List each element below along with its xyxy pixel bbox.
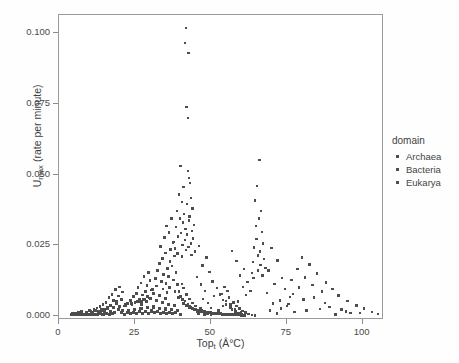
data-point (121, 291, 124, 294)
data-point (154, 277, 157, 280)
data-point (197, 312, 200, 315)
y-tick-label: 0.025 (8, 238, 50, 249)
data-point (240, 314, 243, 317)
data-point (232, 301, 235, 304)
y-axis-title: Umax (rate per minute) (31, 46, 45, 226)
data-point (152, 292, 155, 295)
data-point (70, 313, 73, 316)
data-point (117, 295, 120, 298)
data-point (129, 312, 132, 315)
data-point (304, 276, 306, 278)
data-point (162, 288, 165, 291)
data-point (191, 207, 193, 209)
data-point (147, 312, 150, 315)
data-point (211, 280, 213, 282)
data-point (253, 246, 255, 248)
data-point (181, 283, 184, 286)
data-point (170, 217, 173, 220)
data-point (305, 309, 307, 311)
legend-item-label: Eukarya (406, 177, 441, 188)
data-point (298, 286, 300, 288)
data-point (231, 250, 233, 252)
data-point (101, 313, 104, 316)
data-point (219, 293, 222, 296)
y-tick-label: 0.000 (8, 309, 50, 320)
plot-panel (58, 14, 383, 319)
data-point (252, 277, 254, 279)
data-point (269, 309, 271, 311)
data-point (172, 241, 175, 244)
data-point (114, 288, 117, 291)
data-point (182, 287, 185, 290)
data-point (160, 280, 163, 283)
x-tick-label: 50 (190, 326, 230, 337)
x-axis-title: Topt(Â°C) (58, 337, 383, 351)
x-tick-label: 100 (342, 326, 382, 337)
data-point (78, 313, 81, 316)
data-point (223, 286, 226, 289)
data-point (120, 298, 123, 301)
data-point (141, 312, 144, 315)
data-point (130, 302, 133, 305)
data-point (146, 284, 149, 287)
data-point (316, 272, 318, 274)
data-point (270, 247, 272, 249)
data-point (118, 286, 121, 289)
legend-item-bacteria[interactable]: Bacteria (392, 163, 458, 176)
legend-key (392, 181, 403, 184)
data-point (82, 313, 85, 316)
data-point (185, 106, 187, 108)
data-point (176, 252, 178, 254)
data-points-layer (59, 15, 382, 318)
data-point (198, 245, 200, 247)
data-point (140, 303, 143, 306)
data-point (203, 313, 206, 316)
data-point (115, 300, 118, 303)
data-point (308, 263, 310, 265)
data-point (187, 117, 189, 119)
data-point (163, 236, 166, 239)
y-axis-title-rest: (rate per minute) (31, 84, 43, 165)
data-point (377, 313, 379, 315)
data-point (319, 308, 321, 310)
data-point (239, 274, 241, 276)
data-point (108, 296, 111, 299)
data-point (245, 294, 247, 296)
data-point (181, 255, 183, 257)
data-point (140, 282, 143, 285)
legend-items: ArchaeaBacteriaEukarya (392, 150, 458, 189)
data-point (188, 298, 191, 301)
data-point (257, 269, 259, 271)
legend-item-archaea[interactable]: Archaea (392, 150, 458, 163)
data-point (156, 269, 159, 272)
data-point (371, 311, 373, 313)
data-point (159, 245, 162, 248)
data-point (135, 312, 138, 315)
data-point (176, 283, 179, 286)
data-point (264, 267, 266, 269)
data-point (202, 298, 204, 300)
data-point (272, 302, 274, 304)
data-point (302, 298, 304, 300)
data-point (187, 246, 189, 248)
data-point (193, 224, 195, 226)
data-point (152, 305, 155, 308)
data-point (174, 290, 177, 293)
legend-item-eukarya[interactable]: Eukarya (392, 176, 458, 189)
data-point (146, 295, 149, 298)
data-point (159, 312, 162, 315)
data-point (186, 203, 188, 205)
data-point (173, 255, 176, 258)
data-point (117, 308, 120, 311)
x-tick-label: 0 (38, 326, 78, 337)
data-point (204, 290, 206, 292)
data-point (161, 301, 164, 304)
data-point (228, 296, 231, 299)
data-point (123, 313, 126, 316)
data-point (167, 275, 170, 278)
data-point (188, 219, 190, 221)
data-point (166, 291, 169, 294)
data-point (346, 300, 348, 302)
data-point (111, 293, 114, 296)
data-point (184, 228, 186, 230)
